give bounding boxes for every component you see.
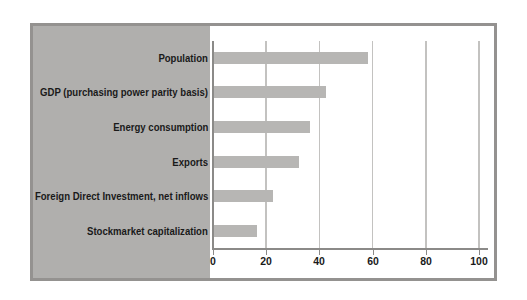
category-label: Exports — [172, 155, 208, 169]
chart-canvas: 020406080100PopulationGDP (purchasing po… — [0, 0, 527, 300]
gridline — [319, 41, 321, 249]
bar — [214, 225, 257, 237]
gridline — [265, 41, 267, 249]
x-tick-label: 40 — [305, 255, 334, 267]
gridline — [478, 41, 480, 249]
bar — [214, 156, 299, 168]
plot-area: 020406080100PopulationGDP (purchasing po… — [0, 0, 527, 300]
category-label: GDP (purchasing power parity basis) — [40, 85, 208, 99]
bar — [214, 52, 368, 64]
category-label: Foreign Direct Investment, net inflows — [35, 189, 208, 203]
x-tick-label: 100 — [465, 255, 494, 267]
gridline — [425, 41, 427, 249]
bar — [214, 121, 310, 133]
bar — [214, 86, 326, 98]
bar — [214, 190, 273, 202]
category-label: Population — [159, 51, 208, 65]
category-label: Energy consumption — [113, 120, 208, 134]
category-label: Stockmarket capitalization — [87, 224, 208, 238]
x-tick-label: 0 — [199, 255, 228, 267]
gridline — [372, 41, 374, 249]
x-tick-label: 80 — [412, 255, 441, 267]
y-axis-line — [212, 41, 214, 249]
x-tick-label: 20 — [252, 255, 281, 267]
x-axis-line — [212, 248, 488, 250]
x-tick-label: 60 — [358, 255, 387, 267]
